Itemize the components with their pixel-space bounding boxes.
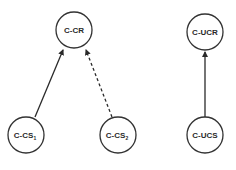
node-c-ucr: C-UCR <box>187 14 223 50</box>
node-c-cs1: C-CS1 <box>8 117 44 153</box>
node-c-ucs: C-UCS <box>187 117 223 153</box>
edge-ccs1-to-ccr <box>35 50 63 117</box>
diagram-canvas: C-CR C-CS1 C-CS2 C-UCR C-UCS <box>0 0 236 170</box>
node-label: C-CS2 <box>106 131 129 141</box>
node-label: C-UCS <box>192 131 218 140</box>
node-label: C-UCR <box>192 28 218 37</box>
node-c-cr: C-CR <box>56 12 92 48</box>
node-label: C-CS1 <box>14 131 37 141</box>
edge-ccs2-to-ccr-dashed <box>86 50 112 117</box>
node-label: C-CR <box>64 26 84 35</box>
node-c-cs2: C-CS2 <box>100 117 136 153</box>
